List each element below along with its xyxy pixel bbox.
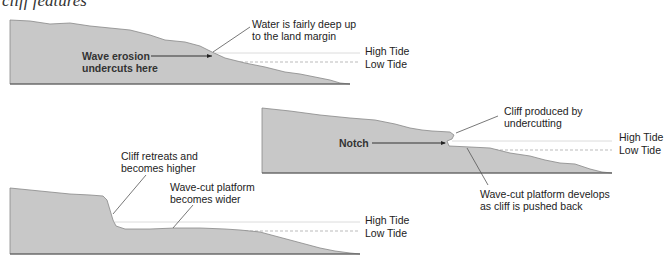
platform-wider-leader-line (173, 205, 193, 228)
platform-develops-label: Wave-cut platform develops as cliff is p… (480, 188, 610, 212)
platform-wider-label: Wave-cut platform becomes wider (170, 181, 255, 205)
water-leader-line (213, 27, 250, 52)
high-tide-label-3: High Tide (365, 214, 409, 226)
cliff-retreats-label: Cliff retreats and becomes higher (121, 150, 198, 174)
low-tide-label-1: Low Tide (365, 58, 407, 70)
cliff-retreat-leader-line (113, 175, 146, 214)
cliff-leader-line (456, 116, 498, 133)
cliff-produced-label: Cliff produced by undercutting (504, 105, 583, 129)
high-tide-label-2: High Tide (619, 131, 663, 143)
low-tide-label-3: Low Tide (365, 227, 407, 239)
low-tide-label-2: Low Tide (619, 144, 661, 156)
wave-erosion-label: Wave erosion undercuts here (82, 50, 158, 74)
water-deep-label: Water is fairly deep up to the land marg… (252, 18, 356, 42)
notch-label: Notch (339, 137, 369, 149)
high-tide-label-1: High Tide (365, 45, 409, 57)
